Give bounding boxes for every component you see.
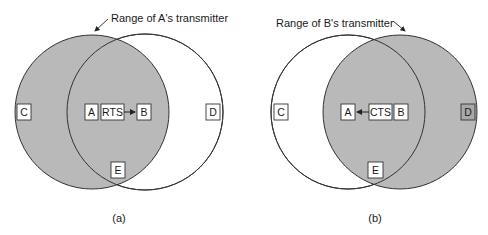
- annotation-label: Range of A's transmitter: [111, 12, 228, 24]
- svg-text:B: B: [140, 106, 147, 118]
- svg-text:C: C: [20, 106, 28, 118]
- node-d: D: [461, 104, 475, 120]
- node-c: C: [17, 104, 31, 120]
- svg-text:RTS: RTS: [102, 106, 123, 118]
- node-e: E: [111, 162, 125, 178]
- panel-a: Range of A's transmitter C A RTS B D E (…: [15, 12, 228, 224]
- annotation-label: Range of B's transmitter: [276, 17, 394, 29]
- rts-frame: RTS: [101, 104, 124, 120]
- node-c: C: [274, 104, 288, 120]
- caption-b: (b): [368, 212, 381, 224]
- caption-a: (a): [112, 212, 125, 224]
- svg-text:D: D: [209, 106, 217, 118]
- svg-text:A: A: [344, 106, 351, 118]
- svg-text:A: A: [88, 106, 95, 118]
- svg-text:C: C: [277, 106, 285, 118]
- panel-b: Range of B's transmitter C A CTS B D E (…: [271, 17, 477, 224]
- cts-frame: CTS: [369, 104, 392, 120]
- annotation-pointer-arrow: [393, 21, 405, 31]
- node-d: D: [206, 104, 220, 120]
- svg-text:CTS: CTS: [370, 106, 391, 118]
- node-b: B: [137, 104, 151, 120]
- svg-text:D: D: [464, 106, 472, 118]
- svg-text:B: B: [397, 106, 404, 118]
- svg-text:E: E: [372, 164, 379, 176]
- rts-cts-diagram: Range of A's transmitter C A RTS B D E (…: [0, 0, 488, 235]
- node-b: B: [394, 104, 408, 120]
- node-e: E: [368, 162, 383, 178]
- svg-text:E: E: [114, 164, 121, 176]
- node-a: A: [341, 104, 355, 120]
- annotation-pointer-arrow: [95, 19, 108, 31]
- node-a: A: [85, 104, 98, 120]
